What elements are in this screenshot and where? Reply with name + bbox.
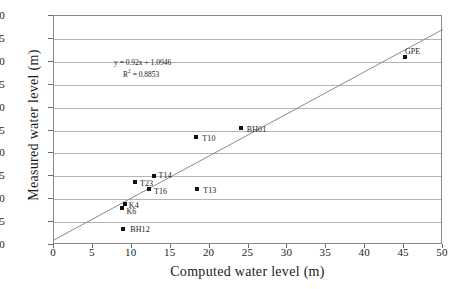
data-point [195,187,199,191]
x-tick-mark [92,244,93,248]
data-point-label: BH12 [130,226,150,234]
x-tick-label: 5 [77,247,107,258]
x-tick-label: 50 [427,247,456,258]
x-tick-label: 0 [38,247,68,258]
data-point [147,187,151,191]
x-tick-label: 10 [116,247,146,258]
x-tick-mark [403,244,404,248]
y-tick-label: 20 [0,147,5,158]
x-tick-mark [442,244,443,248]
x-tick-mark [209,244,210,248]
x-tick-label: 15 [155,247,185,258]
x-tick-mark [170,244,171,248]
data-point [123,202,127,206]
x-tick-mark [364,244,365,248]
x-tick-label: 45 [388,247,418,258]
data-point [194,135,198,139]
r-squared-value: = 0.8853 [131,70,160,79]
data-point [133,180,137,184]
x-tick-mark [53,244,54,248]
y-tick-label: 0 [0,239,5,250]
x-tick-label: 35 [310,247,340,258]
data-point-label: T13 [203,187,216,195]
y-tick-label: 50 [0,10,5,21]
x-tick-mark [248,244,249,248]
data-point [120,206,124,210]
x-axis-title: Computed water level (m) [53,264,442,280]
data-point-label: BH01 [247,126,267,134]
y-tick-label: 35 [0,79,5,90]
plot-area: y = 0.92x + 1.0946 R2 = 0.8853 BH12K6K4T… [53,15,442,244]
x-tick-mark [286,244,287,248]
x-tick-mark [325,244,326,248]
y-tick-label: 45 [0,33,5,44]
r-squared-text: R2 = 0.8853 [114,67,171,79]
y-tick-label: 10 [0,193,5,204]
data-point-label: GPE [405,48,420,56]
scatter-chart-figure: Measured water level (m) 051015202530354… [0,0,456,289]
y-tick-label: 25 [0,125,5,136]
data-point [152,174,156,178]
y-tick-label: 15 [0,170,5,181]
x-tick-mark [131,244,132,248]
regression-equation-text: y = 0.92x + 1.0946 [114,58,171,67]
x-tick-label: 40 [349,247,379,258]
data-point [239,126,243,130]
data-point-label: T16 [154,188,167,196]
y-axis-title: Measured water level (m) [26,30,42,220]
data-point-label: T10 [202,135,215,143]
x-tick-label: 25 [233,247,263,258]
x-tick-label: 20 [194,247,224,258]
y-tick-label: 30 [0,102,5,113]
y-tick-label: 5 [0,216,5,227]
data-point [121,227,125,231]
x-tick-label: 30 [271,247,301,258]
regression-equation-annotation: y = 0.92x + 1.0946 R2 = 0.8853 [114,58,171,79]
y-tick-label: 40 [0,56,5,67]
data-point-label: T14 [159,172,172,180]
data-point-label: K4 [129,202,139,210]
